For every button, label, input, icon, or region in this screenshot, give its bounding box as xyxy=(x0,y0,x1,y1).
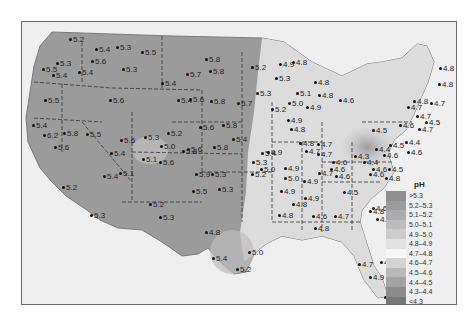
legend-item: 5.2–5.3 xyxy=(386,201,452,211)
ph-value: 5.3 xyxy=(279,74,290,83)
ph-value: 5.5 xyxy=(90,130,101,139)
station-dot-icon xyxy=(290,128,293,131)
station-dot-icon xyxy=(375,148,378,151)
ph-station: 4.9 xyxy=(280,188,295,196)
station-dot-icon xyxy=(69,38,72,41)
station-dot-icon xyxy=(380,261,383,264)
ph-station: 5.3 xyxy=(122,66,137,74)
ph-station: 5.0 xyxy=(260,166,275,174)
ph-station: 4.9 xyxy=(287,117,302,125)
station-dot-icon xyxy=(109,99,112,102)
station-dot-icon xyxy=(205,58,208,61)
ph-value: 5.4 xyxy=(216,254,227,263)
ph-value: 5.3 xyxy=(148,133,159,142)
ph-station: 4.9 xyxy=(306,104,321,112)
ph-station: 4.9 xyxy=(284,165,299,173)
ph-value: 5.2 xyxy=(66,183,77,192)
station-dot-icon xyxy=(278,214,281,217)
legend-label: 4.4–4.5 xyxy=(409,279,432,286)
ph-value: 5.6 xyxy=(191,145,202,154)
ph-station: 4.8 xyxy=(314,225,329,233)
ph-station: 5.6 xyxy=(159,159,174,167)
ph-value: 4.7 xyxy=(422,125,433,134)
ph-value: 4.6 xyxy=(411,148,422,157)
station-dot-icon xyxy=(261,152,264,155)
station-dot-icon xyxy=(416,115,419,118)
legend-swatch xyxy=(386,191,406,201)
ph-value: 4.8 xyxy=(294,125,305,134)
ph-value: 4.8 xyxy=(318,224,329,233)
station-dot-icon xyxy=(296,92,299,95)
station-dot-icon xyxy=(383,154,386,157)
station-dot-icon xyxy=(144,136,147,139)
station-dot-icon xyxy=(339,99,342,102)
station-dot-icon xyxy=(189,98,192,101)
ph-station: 4.6 xyxy=(312,213,327,221)
ph-value: 5.1 xyxy=(300,89,311,98)
station-dot-icon xyxy=(306,106,309,109)
station-dot-icon xyxy=(271,108,274,111)
station-dot-icon xyxy=(116,46,119,49)
ph-value: 5.8 xyxy=(226,121,237,130)
ph-value: 5.6 xyxy=(124,136,135,145)
station-dot-icon xyxy=(376,218,379,221)
station-dot-icon xyxy=(438,83,441,86)
station-dot-icon xyxy=(63,132,66,135)
station-dot-icon xyxy=(142,158,145,161)
station-dot-icon xyxy=(167,132,170,135)
station-dot-icon xyxy=(330,168,333,171)
ph-value: 5.2 xyxy=(73,35,84,44)
ph-value: 5.4 xyxy=(165,79,176,88)
station-dot-icon xyxy=(407,106,410,109)
map-frame: 5.25.45.35.55.35.55.65.35.45.45.75.85.85… xyxy=(21,21,457,305)
ph-value: 4.6 xyxy=(316,212,327,221)
station-dot-icon xyxy=(32,124,35,127)
station-dot-icon xyxy=(209,70,212,73)
ph-station: 4.8 xyxy=(413,98,428,106)
station-dot-icon xyxy=(280,190,283,193)
station-dot-icon xyxy=(78,71,81,74)
ph-value: 5.8 xyxy=(67,129,78,138)
legend-item: 4.4–4.5 xyxy=(386,277,452,287)
ph-station: 5.1 xyxy=(142,156,157,164)
ph-value: 4.6 xyxy=(339,172,350,181)
ph-station: 5.0 xyxy=(284,175,299,183)
ph-station: 5.2 xyxy=(236,266,251,274)
ph-value: 5.7 xyxy=(241,99,252,108)
ph-value: 5.0 xyxy=(164,142,175,151)
station-dot-icon xyxy=(287,119,290,122)
station-dot-icon xyxy=(332,161,335,164)
ph-station: 5.0 xyxy=(288,100,303,108)
station-dot-icon xyxy=(195,173,198,176)
legend-item: 4.3–4.4 xyxy=(386,287,452,297)
station-dot-icon xyxy=(199,126,202,129)
ph-value: 5.6 xyxy=(203,123,214,132)
ph-station: 5.6 xyxy=(109,97,124,105)
ph-value: 5.2 xyxy=(275,105,286,114)
ph-value: 4.5 xyxy=(347,188,358,197)
legend-swatch xyxy=(386,277,406,287)
ph-value: 5.3 xyxy=(260,89,271,98)
ph-station: 4.9 xyxy=(303,178,318,186)
legend-label: 4.6–4.7 xyxy=(409,259,432,266)
ph-station: 5.5 xyxy=(86,131,101,139)
station-dot-icon xyxy=(205,231,208,234)
station-dot-icon xyxy=(177,99,180,102)
station-dot-icon xyxy=(275,77,278,80)
legend-item: 4.7–4.8 xyxy=(386,249,452,259)
ph-value: 4.9 xyxy=(271,148,282,157)
ph-value: 5.4 xyxy=(82,68,93,77)
ph-station: 4.8 xyxy=(278,212,293,220)
ph-value: 5.8 xyxy=(213,67,224,76)
legend-item: 4.8–4.9 xyxy=(386,239,452,249)
ph-station: 5.4 xyxy=(212,255,227,263)
legend-label: 4.3–4.4 xyxy=(409,288,432,295)
ph-station: 5.0 xyxy=(160,143,175,151)
ph-station: 4.8 xyxy=(438,81,453,89)
station-dot-icon xyxy=(256,92,259,95)
ph-value: 4.8 xyxy=(209,228,220,237)
station-dot-icon xyxy=(292,203,295,206)
legend-item: 4.6–4.7 xyxy=(386,258,452,268)
station-dot-icon xyxy=(252,161,255,164)
ph-value: 5.0 xyxy=(288,174,299,183)
